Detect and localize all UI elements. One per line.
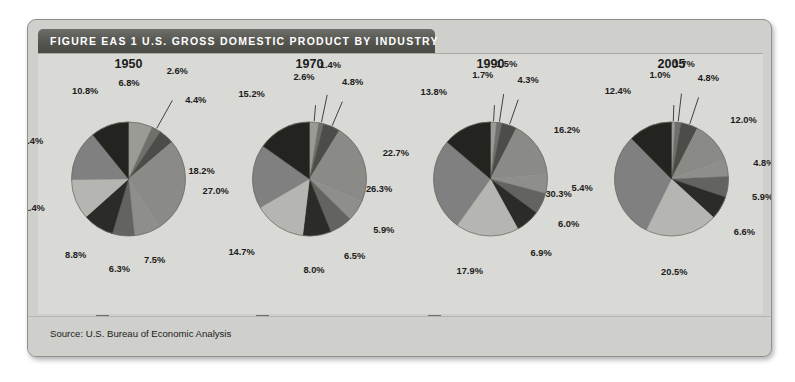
pie-slice-label: 4.8% bbox=[753, 158, 772, 168]
pie-slice-label: 14.4% bbox=[27, 136, 43, 146]
pie-slice-label: 20.5% bbox=[661, 267, 687, 277]
pie-slice-label: 4.4% bbox=[185, 95, 206, 105]
label-leader-line bbox=[332, 102, 342, 126]
pie-slice-label: 26.3% bbox=[366, 184, 392, 194]
pie-slice-label: 6.0% bbox=[558, 219, 579, 229]
pie-slice-label: 15.2% bbox=[238, 89, 264, 99]
pie-slice-label: 1.5% bbox=[496, 59, 517, 69]
pie-slice-label: 1.4% bbox=[320, 60, 341, 70]
pie-chart-1990: 19901.7%1.5%4.3%16.2%5.4%6.0%6.9%17.9%26… bbox=[400, 54, 581, 272]
pie-slice-label: 1.7% bbox=[472, 70, 493, 80]
pie-slice-label: 8.8% bbox=[65, 250, 86, 260]
figure-title: FIGURE EAS 1 U.S. GROSS DOMESTIC PRODUCT… bbox=[50, 35, 439, 47]
label-leader-line bbox=[499, 94, 503, 122]
label-leader-line bbox=[690, 97, 699, 124]
pie-svg bbox=[219, 54, 400, 272]
label-leader-line bbox=[314, 105, 315, 121]
pie-chart-1970: 19702.6%1.4%4.8%22.7%5.9%6.5%8.0%14.7%18… bbox=[219, 54, 400, 272]
pie-slice-label: 12.0% bbox=[730, 115, 756, 125]
charts-plot-area: 19506.8%2.6%4.4%27.0%7.5%6.3%8.8%11.4%14… bbox=[38, 53, 763, 314]
pie-chart-1950: 19506.8%2.6%4.4%27.0%7.5%6.3%8.8%11.4%14… bbox=[38, 54, 219, 272]
pie-chart-2005: 20051.0%1.7%4.8%12.0%4.8%5.9%6.6%20.5%30… bbox=[581, 54, 762, 272]
pie-slice-label: 2.6% bbox=[167, 66, 188, 76]
pie-slice-label: 6.5% bbox=[344, 251, 365, 261]
source-bar: Source: U.S. Bureau of Economic Analysis bbox=[28, 316, 772, 357]
source-text: Source: U.S. Bureau of Economic Analysis bbox=[50, 328, 231, 339]
pie-slice-label: 6.8% bbox=[118, 78, 139, 88]
pie-slice-label: 4.8% bbox=[342, 77, 363, 87]
pie-slice-label: 1.7% bbox=[674, 59, 695, 69]
pie-slice-label: 6.3% bbox=[109, 264, 130, 274]
figure-title-bar: FIGURE EAS 1 U.S. GROSS DOMESTIC PRODUCT… bbox=[38, 29, 435, 53]
pie-slice-label: 8.0% bbox=[303, 265, 324, 275]
pie-slice-label: 5.9% bbox=[752, 192, 772, 202]
pie-slice-label: 6.9% bbox=[531, 248, 552, 258]
label-leader-line bbox=[678, 94, 681, 122]
pie-slice-label: 30.3% bbox=[545, 189, 571, 199]
pie-slice-label: 14.7% bbox=[228, 247, 254, 257]
pie-slice-label: 4.8% bbox=[698, 73, 719, 83]
pie-slice-label: 1.0% bbox=[649, 70, 670, 80]
pie-slice-label: 10.8% bbox=[72, 86, 98, 96]
label-leader-line bbox=[673, 105, 674, 121]
pie-slice-label: 7.5% bbox=[144, 255, 165, 265]
figure-card: FIGURE EAS 1 U.S. GROSS DOMESTIC PRODUCT… bbox=[27, 19, 772, 357]
pie-slice-label: 13.8% bbox=[421, 87, 447, 97]
pie-slice-label: 17.9% bbox=[457, 266, 483, 276]
pie-slice-label: 4.3% bbox=[518, 75, 539, 85]
pie-slice-label: 16.2% bbox=[554, 125, 580, 135]
label-leader-line bbox=[494, 105, 495, 121]
pie-slice-label: 2.6% bbox=[293, 72, 314, 82]
pie-slice-label: 6.6% bbox=[734, 227, 755, 237]
label-leader-line bbox=[510, 100, 519, 125]
pie-slice-label: 18.2% bbox=[188, 166, 214, 176]
label-leader-line bbox=[321, 95, 327, 122]
label-leader-line bbox=[157, 100, 173, 128]
pie-slice-label: 11.4% bbox=[27, 203, 45, 213]
pie-slice-label: 12.4% bbox=[605, 86, 631, 96]
pie-slice-label: 5.9% bbox=[373, 225, 394, 235]
